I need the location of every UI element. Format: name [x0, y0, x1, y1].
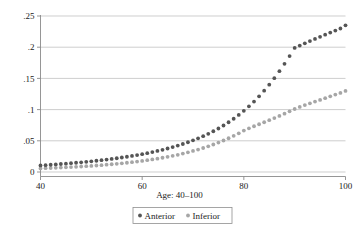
data-point [242, 129, 246, 133]
data-point [323, 96, 327, 100]
tick-marks [37, 16, 346, 180]
scatter-plot: 0.05.1.15.2.25 406080100 Age: 40–100 Ant… [0, 0, 359, 231]
data-point [293, 46, 297, 50]
data-point [100, 163, 104, 167]
data-point [115, 156, 119, 160]
data-point [150, 158, 154, 162]
data-point [252, 100, 256, 104]
data-point [217, 141, 221, 145]
data-point [95, 164, 99, 168]
data-point [222, 124, 226, 128]
data-point [201, 134, 205, 138]
data-point [313, 37, 317, 41]
data-point [140, 159, 144, 163]
data-point [257, 122, 261, 126]
data-point [262, 120, 266, 124]
data-point [267, 118, 271, 122]
series-anterior-points [39, 23, 348, 167]
data-point [237, 113, 241, 117]
data-point [89, 159, 93, 163]
data-point [44, 163, 48, 167]
data-point [191, 149, 195, 153]
data-point [267, 83, 271, 87]
data-point [278, 69, 282, 73]
data-point [54, 166, 58, 170]
data-point [181, 142, 185, 146]
data-point [232, 134, 236, 138]
data-point [64, 162, 68, 166]
data-point [211, 143, 215, 147]
series-inferior-points [39, 89, 348, 170]
data-point [272, 116, 276, 120]
data-point [135, 153, 139, 157]
data-point [333, 29, 337, 33]
data-point [171, 145, 175, 149]
data-point [323, 33, 327, 37]
data-point [171, 154, 175, 158]
data-point [125, 155, 129, 159]
data-point [288, 109, 292, 113]
data-point [303, 41, 307, 45]
data-point [303, 103, 307, 107]
data-point [105, 163, 109, 167]
y-axis-tick-labels: 0.05.1.15.2.25 [23, 11, 35, 177]
data-point [69, 165, 73, 169]
data-point [84, 160, 88, 164]
data-point [252, 124, 256, 128]
data-point [247, 126, 251, 130]
data-point [100, 158, 104, 162]
data-point [308, 39, 312, 43]
data-point [257, 94, 261, 98]
data-point [130, 160, 134, 164]
y-tick-label: 0 [30, 167, 35, 177]
y-tick-label: .1 [28, 105, 35, 115]
data-point [318, 35, 322, 39]
data-point [196, 148, 200, 152]
y-tick-label: .25 [23, 11, 35, 21]
data-point [333, 93, 337, 97]
x-tick-label: 40 [36, 181, 46, 191]
data-point [110, 162, 114, 166]
data-point [54, 162, 58, 166]
data-point [140, 152, 144, 156]
data-point [166, 147, 170, 151]
legend-marker-inferior [186, 214, 190, 218]
y-tick-label: .15 [23, 74, 35, 84]
data-point [69, 161, 73, 165]
data-point [247, 104, 251, 108]
data-point [272, 76, 276, 80]
data-point [49, 166, 53, 170]
data-point [293, 107, 297, 111]
data-point [283, 62, 287, 66]
data-point [135, 160, 139, 164]
legend-label-anterior: Anterior [145, 211, 176, 221]
data-point [115, 162, 119, 166]
gridlines [41, 16, 346, 172]
data-point [328, 31, 332, 35]
data-point [145, 151, 149, 155]
data-point [145, 158, 149, 162]
data-point [125, 161, 129, 165]
data-point [161, 148, 165, 152]
data-point [166, 155, 170, 159]
data-point [242, 109, 246, 113]
chart-legend: AnteriorInferior [133, 208, 232, 224]
data-point [211, 129, 215, 133]
data-point [84, 164, 88, 168]
legend-label-inferior: Inferior [193, 211, 220, 221]
data-point [308, 101, 312, 105]
data-point [79, 165, 83, 169]
x-axis-title: Age: 40–100 [156, 190, 203, 200]
data-point [262, 89, 266, 93]
data-point [156, 149, 160, 153]
y-tick-label: .2 [28, 42, 35, 52]
data-point [328, 94, 332, 98]
data-point [89, 164, 93, 168]
data-point [110, 157, 114, 161]
data-point [74, 161, 78, 165]
data-point [105, 158, 109, 162]
data-point [59, 162, 63, 166]
data-point [344, 89, 348, 93]
data-point [227, 136, 231, 140]
data-point [278, 114, 282, 118]
